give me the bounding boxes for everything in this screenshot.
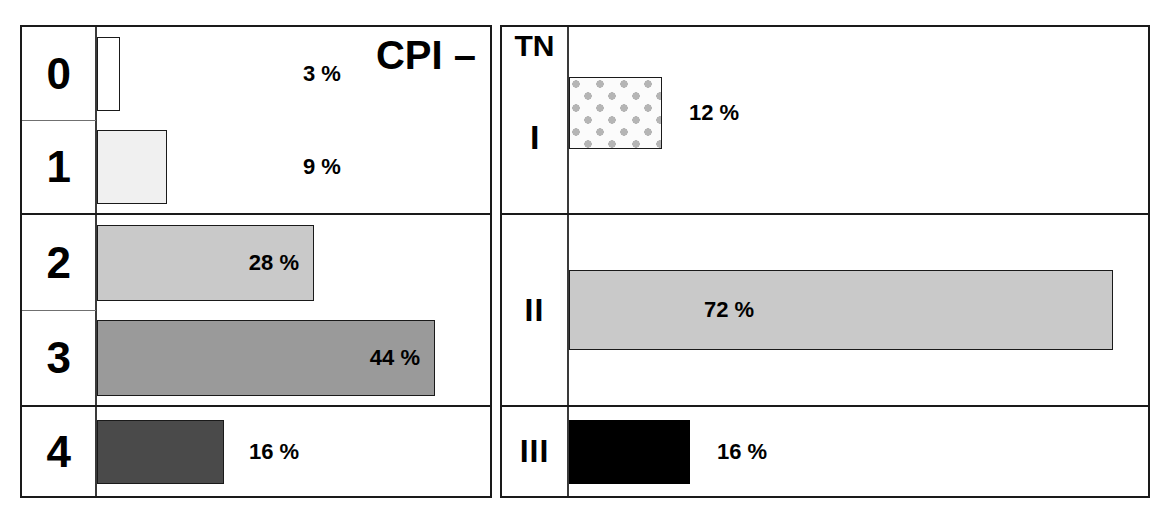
cpi-bar-area-3: 44 % — [97, 310, 490, 405]
cpi-bar-area-0: 3 % — [97, 27, 490, 120]
cpi-bar-value-3: 44 % — [370, 345, 434, 371]
cpi-group-low: 0 3 % 1 9 % — [22, 27, 490, 213]
cpi-group-high: 4 16 % — [22, 405, 490, 496]
cpi-bar-value-2: 28 % — [249, 250, 313, 276]
tn-bar-value-2: 16 % — [717, 439, 767, 465]
tn-bar-value-0: 12 % — [689, 100, 739, 126]
cpi-row-1: 1 9 % — [22, 120, 490, 213]
cpi-category-label-1: 1 — [22, 120, 95, 213]
tn-group-i: TN I 12 % — [502, 27, 1148, 213]
tn-row-1: II 72 % — [502, 215, 1148, 405]
cpi-row-4: 4 16 % — [22, 407, 490, 496]
tn-bar-area-2: 16 % — [569, 407, 1148, 496]
cpi-bar-3: 44 % — [97, 320, 435, 396]
cpi-category-label-0: 0 — [22, 27, 95, 120]
tn-bar-0 — [569, 77, 662, 149]
tn-row-2: III 16 % — [502, 407, 1148, 496]
tn-group-iii: III 16 % — [502, 405, 1148, 496]
tn-bar-area-1: 72 % — [569, 215, 1148, 405]
cpi-panel: CPI – 0 3 % 1 9 % 2 — [20, 25, 492, 498]
tn-category-label-1: II — [502, 215, 567, 405]
cpi-group-mid: 2 28 % 3 44 % — [22, 213, 490, 405]
cpi-row-2: 2 28 % — [22, 215, 490, 310]
cpi-bar-value-1: 9 % — [303, 154, 341, 180]
tn-row-0: TN I 12 % — [502, 27, 1148, 213]
tn-category-label-0: I — [502, 61, 567, 213]
tn-bar-2 — [569, 420, 690, 484]
tn-group-ii: II 72 % — [502, 213, 1148, 405]
cpi-bar-0 — [97, 37, 120, 111]
tn-corner-tag: TN — [502, 29, 567, 63]
cpi-bar-1 — [97, 130, 167, 204]
cpi-category-label-4: 4 — [22, 407, 95, 496]
tn-bar-1: 72 % — [569, 270, 1113, 350]
cpi-bar-area-1: 9 % — [97, 120, 490, 213]
cpi-bar-2: 28 % — [97, 225, 314, 301]
cpi-row-0: 0 3 % — [22, 27, 490, 120]
cpi-row-3: 3 44 % — [22, 310, 490, 405]
cpi-bar-value-4: 16 % — [249, 439, 299, 465]
cpi-bar-area-4: 16 % — [97, 407, 490, 496]
tn-panel: TN I 12 % II 72 % III — [500, 25, 1150, 498]
two-panel-bar-chart: CPI – 0 3 % 1 9 % 2 — [0, 0, 1162, 508]
cpi-bar-value-0: 3 % — [303, 61, 341, 87]
cpi-bar-area-2: 28 % — [97, 215, 490, 310]
tn-category-label-2: III — [502, 407, 567, 496]
tn-bar-value-1: 72 % — [704, 297, 754, 323]
cpi-bar-4 — [97, 420, 224, 484]
tn-bar-area-0: 12 % — [569, 27, 1148, 213]
cpi-category-label-3: 3 — [22, 310, 95, 405]
cpi-category-label-2: 2 — [22, 215, 95, 310]
